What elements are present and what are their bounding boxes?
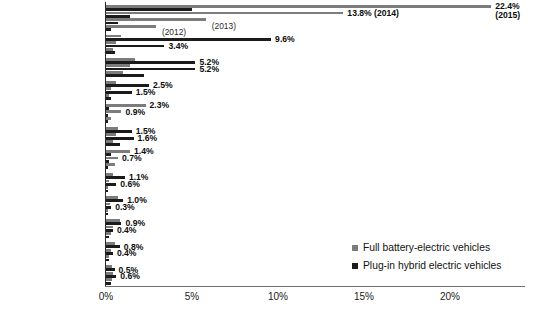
x-axis-tick: 20% <box>440 291 460 302</box>
x-axis-tick: 15% <box>354 291 374 302</box>
x-axis-tick: 10% <box>268 291 288 302</box>
bar-value-label: 3.4% <box>168 42 188 51</box>
bar-value-label: 2.5% <box>153 81 173 90</box>
bar-phev <box>106 143 120 146</box>
bar-year-annotation: (2015) <box>495 11 520 20</box>
bar-phev <box>106 190 108 193</box>
bar-phev <box>106 45 164 48</box>
x-axis-tick: 5% <box>185 291 199 302</box>
bar-value-label: 0.7% <box>122 154 142 163</box>
legend-swatch-phev-icon <box>352 263 358 269</box>
bar-bev <box>106 18 206 21</box>
bar-value-label: 2.3% <box>150 101 170 110</box>
legend-item-phev: Plug-in hybrid electric vehicles <box>352 258 502 273</box>
bar-phev <box>106 120 108 123</box>
bar-phev <box>106 74 144 77</box>
bar-value-label: 9.6% <box>275 35 295 44</box>
bar-bev <box>106 25 156 28</box>
bar-value-label: 0.4% <box>117 226 137 235</box>
bar-bev <box>106 110 121 113</box>
legend-label-bev: Full battery-electric vehicles <box>363 242 490 253</box>
bar-value-label: 5.2% <box>199 65 219 74</box>
bar-value-label: 0.3% <box>115 203 135 212</box>
ev-market-share-chart: 22.4%(2015)13.8% (2014)(2013)(2012)Norwa… <box>0 0 536 311</box>
bar-value-label: 1.5% <box>136 88 156 97</box>
bar-year-annotation: (2012) <box>162 28 186 36</box>
legend-item-bev: Full battery-electric vehicles <box>352 240 502 255</box>
bar-phev <box>106 38 271 41</box>
bar-value-label: 1.6% <box>138 134 158 143</box>
bar-value-label: 0.6% <box>120 180 140 189</box>
bar-bev <box>106 12 343 15</box>
bar-phev <box>106 282 111 285</box>
bar-phev <box>106 166 108 169</box>
legend-label-phev: Plug-in hybrid electric vehicles <box>363 260 502 271</box>
bar-phev <box>106 51 115 54</box>
bar-phev <box>106 28 111 31</box>
bar-value-label: 13.8% (2014) <box>347 9 399 18</box>
bar-year-annotation: (2013) <box>212 22 236 30</box>
bar-phev <box>106 97 111 100</box>
legend-swatch-bev-icon <box>352 245 358 251</box>
chart-legend: Full battery-electric vehicles Plug-in h… <box>352 240 502 276</box>
bar-value-label: 0.9% <box>125 108 145 117</box>
bar-phev <box>106 236 109 239</box>
bar-phev <box>106 213 108 216</box>
bar-value-label: 0.6% <box>120 272 140 281</box>
bar-phev <box>106 259 109 262</box>
bar-value-label: 0.4% <box>117 249 137 258</box>
x-axis-tick: 0% <box>99 291 113 302</box>
bar-phev <box>106 91 132 94</box>
